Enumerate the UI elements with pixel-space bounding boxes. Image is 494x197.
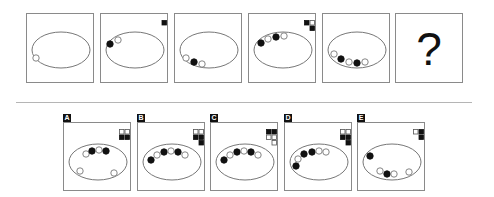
hollow-dot xyxy=(168,148,174,154)
frame-drawing xyxy=(323,14,391,84)
filled-dot xyxy=(148,157,154,163)
hollow-dot xyxy=(281,33,287,39)
hollow-dot xyxy=(154,152,160,158)
hollow-dot xyxy=(96,147,102,153)
filled-square-icon xyxy=(346,135,351,140)
frame-drawing xyxy=(249,14,317,84)
hollow-dot xyxy=(331,51,337,57)
option-drawing xyxy=(285,123,353,192)
option-c[interactable] xyxy=(210,122,278,191)
filled-square-icon xyxy=(199,141,204,146)
filled-dot xyxy=(384,171,390,177)
hollow-dot xyxy=(77,168,83,174)
filled-square-icon xyxy=(199,135,204,140)
hollow-square-icon xyxy=(272,141,277,146)
option-drawing xyxy=(211,123,279,192)
hollow-square-icon xyxy=(414,130,419,135)
frame-drawing xyxy=(101,14,169,84)
hollow-dot xyxy=(406,169,412,175)
filled-dot xyxy=(175,149,181,155)
sequence-frame-5 xyxy=(322,13,390,83)
filled-dot xyxy=(309,149,315,155)
hollow-square-icon xyxy=(267,135,272,140)
filled-square-icon xyxy=(267,130,272,135)
option-b[interactable] xyxy=(137,122,205,191)
frame-drawing xyxy=(27,14,95,84)
filled-square-icon xyxy=(310,26,315,31)
filled-dot xyxy=(161,149,167,155)
filled-dot xyxy=(191,59,197,65)
sequence-frame-2 xyxy=(100,13,168,83)
hollow-square-icon xyxy=(199,130,204,135)
filled-square-icon xyxy=(162,21,167,26)
hollow-square-icon xyxy=(341,130,346,135)
separator-line xyxy=(16,102,472,103)
hollow-dot xyxy=(316,148,322,154)
filled-square-icon xyxy=(125,135,130,140)
hollow-dot xyxy=(111,170,117,176)
filled-square-icon xyxy=(341,135,346,140)
filled-dot xyxy=(103,148,109,154)
filled-dot xyxy=(301,151,307,157)
filled-dot xyxy=(338,56,344,62)
filled-dot xyxy=(107,41,113,47)
filled-dot xyxy=(367,153,373,159)
filled-dot xyxy=(354,60,360,66)
option-drawing xyxy=(138,123,206,192)
hollow-dot xyxy=(391,171,397,177)
hollow-dot xyxy=(323,149,329,155)
option-label-d: D xyxy=(284,114,292,122)
filled-square-icon xyxy=(305,21,310,26)
hollow-dot xyxy=(83,151,89,157)
hollow-dot xyxy=(255,152,261,158)
option-label-c: C xyxy=(210,114,218,122)
filled-square-icon xyxy=(120,135,125,140)
sequence-frame-4 xyxy=(248,13,316,83)
option-label-a: A xyxy=(63,114,71,122)
hollow-dot xyxy=(265,36,271,42)
hollow-dot xyxy=(377,168,383,174)
option-a[interactable] xyxy=(63,122,131,191)
ellipse-shape xyxy=(180,32,238,68)
hollow-dot xyxy=(33,55,39,61)
hollow-square-icon xyxy=(346,130,351,135)
hollow-dot xyxy=(346,59,352,65)
hollow-dot xyxy=(295,156,301,162)
option-d[interactable] xyxy=(284,122,352,191)
filled-square-icon xyxy=(419,135,424,140)
option-drawing xyxy=(64,123,132,192)
option-e[interactable] xyxy=(357,122,425,191)
ellipse-shape xyxy=(106,32,164,68)
filled-dot xyxy=(234,149,240,155)
filled-square-icon xyxy=(272,130,277,135)
filled-square-icon xyxy=(346,141,351,146)
filled-dot xyxy=(293,163,299,169)
hollow-square-icon xyxy=(310,21,315,26)
frame-drawing xyxy=(175,14,243,84)
question-mark: ? xyxy=(396,26,462,72)
hollow-dot xyxy=(199,61,205,67)
hollow-square-icon xyxy=(272,135,277,140)
hollow-dot xyxy=(115,37,121,43)
hollow-dot xyxy=(182,152,188,158)
ellipse-shape xyxy=(32,32,90,68)
option-drawing xyxy=(358,123,426,192)
hollow-dot xyxy=(227,152,233,158)
filled-square-icon xyxy=(194,135,199,140)
filled-dot xyxy=(258,40,264,46)
filled-dot xyxy=(89,148,95,154)
filled-dot xyxy=(273,34,279,40)
option-label-b: B xyxy=(137,114,145,122)
hollow-dot xyxy=(183,55,189,61)
sequence-frame-3 xyxy=(174,13,242,83)
hollow-dot xyxy=(241,148,247,154)
sequence-frame-unknown: ? xyxy=(395,13,463,83)
option-label-e: E xyxy=(357,114,365,122)
filled-square-icon xyxy=(419,130,424,135)
sequence-frame-1 xyxy=(26,13,94,83)
hollow-square-icon xyxy=(194,130,199,135)
hollow-dot xyxy=(362,59,368,65)
hollow-square-icon xyxy=(125,130,130,135)
filled-dot xyxy=(221,157,227,163)
filled-dot xyxy=(248,149,254,155)
